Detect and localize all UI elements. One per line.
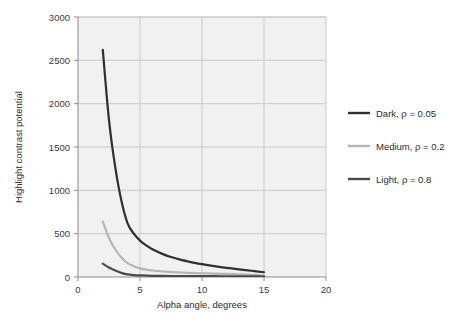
y-tick-label: 500: [54, 228, 70, 239]
y-tick-label: 0: [65, 272, 70, 283]
x-tick-label: 10: [197, 284, 208, 295]
y-tick-label: 1000: [49, 185, 70, 196]
x-tick-label: 15: [259, 284, 270, 295]
legend-label: Dark, ρ = 0.05: [376, 108, 436, 119]
y-tick-label: 2500: [49, 55, 70, 66]
y-axis-title: Highlight contrast potential: [13, 91, 24, 203]
line-chart: 050010001500200025003000 05101520 Dark, …: [0, 0, 467, 322]
x-axis-title: Alpha angle, degrees: [157, 299, 247, 310]
y-tick-label: 2000: [49, 98, 70, 109]
x-tick-label: 5: [137, 284, 142, 295]
x-tick-label: 0: [75, 284, 80, 295]
y-tick-label: 3000: [49, 12, 70, 23]
legend-label: Light, ρ = 0.8: [376, 174, 431, 185]
chart-container: 050010001500200025003000 05101520 Dark, …: [0, 0, 467, 322]
y-tick-label: 1500: [49, 142, 70, 153]
legend-label: Medium, ρ = 0.2: [376, 141, 445, 152]
x-tick-label: 20: [321, 284, 332, 295]
